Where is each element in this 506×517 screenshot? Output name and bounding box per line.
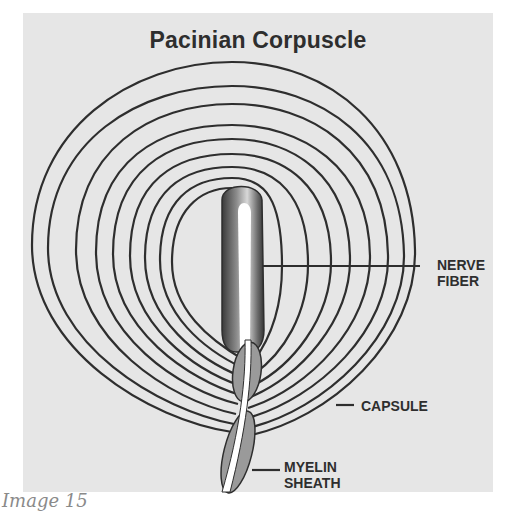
label-nerve-fiber: NERVE FIBER: [437, 257, 485, 289]
pacinian-corpuscle-illustration: [0, 0, 506, 517]
label-myelin-sheath-line2: SHEATH: [284, 475, 341, 491]
label-myelin-sheath-line1: MYELIN: [284, 459, 341, 475]
label-myelin-sheath: MYELIN SHEATH: [284, 459, 341, 491]
image-caption: Image 15: [2, 490, 88, 511]
leader-lines: [252, 266, 420, 470]
nerve-core-highlight: [238, 203, 251, 350]
label-nerve-fiber-line1: NERVE: [437, 257, 485, 273]
label-capsule: CAPSULE: [361, 398, 428, 414]
label-nerve-fiber-line2: FIBER: [437, 273, 485, 289]
